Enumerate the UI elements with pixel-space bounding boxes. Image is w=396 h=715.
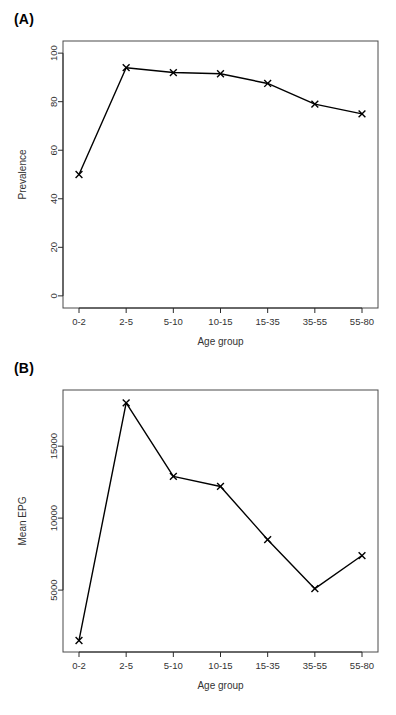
x-axis-title: Age group xyxy=(197,336,244,347)
figure-container: (A) 0204060801000-22-55-1010-1515-3535-5… xyxy=(0,0,396,715)
x-axis-tick-label: 5-10 xyxy=(164,316,183,327)
y-axis-title: Prevalence xyxy=(17,149,28,199)
y-axis-tick-label: 40 xyxy=(49,193,60,204)
chart-panel-a: (A) 0204060801000-22-55-1010-1515-3535-5… xyxy=(0,0,396,355)
y-axis-title: Mean EPG xyxy=(17,496,28,545)
x-axis-tick-label: 15-35 xyxy=(256,660,280,671)
y-axis-tick-label: 60 xyxy=(49,145,60,156)
x-axis-tick-label: 0-2 xyxy=(72,660,86,671)
x-axis-tick-label: 15-35 xyxy=(256,316,280,327)
data-series-line xyxy=(79,68,362,175)
y-axis-tick-label: 20 xyxy=(49,242,60,253)
plot-frame xyxy=(63,41,378,308)
x-axis-tick-label: 2-5 xyxy=(119,660,133,671)
x-axis-tick-label: 2-5 xyxy=(119,316,133,327)
y-axis-tick-label: 0 xyxy=(49,293,60,298)
y-axis-tick-label: 5000 xyxy=(49,580,60,601)
chart-panel-b: (B) 500010000150000-22-55-1010-1515-3535… xyxy=(0,352,396,715)
x-axis-tick-label: 0-2 xyxy=(72,316,86,327)
x-axis-tick-label: 35-55 xyxy=(303,660,327,671)
y-axis-tick-label: 80 xyxy=(49,96,60,107)
x-axis-tick-label: 10-15 xyxy=(208,316,232,327)
data-point-marker xyxy=(311,585,318,592)
prevalence-line-chart: 0204060801000-22-55-1010-1515-3535-5555-… xyxy=(0,0,396,355)
x-axis-tick-label: 35-55 xyxy=(303,316,327,327)
x-axis-tick-label: 10-15 xyxy=(208,660,232,671)
x-axis-title: Age group xyxy=(197,680,244,691)
data-point-marker xyxy=(76,171,83,178)
x-axis-tick-label: 55-80 xyxy=(350,316,374,327)
y-axis-tick-label: 100 xyxy=(49,45,60,61)
plot-frame xyxy=(63,390,378,652)
y-axis-tick-label: 15000 xyxy=(49,433,60,459)
data-series-line xyxy=(79,403,362,641)
x-axis-tick-label: 5-10 xyxy=(164,660,183,671)
mean-epg-line-chart: 500010000150000-22-55-1010-1515-3535-555… xyxy=(0,352,396,715)
x-axis-tick-label: 55-80 xyxy=(350,660,374,671)
y-axis-tick-label: 10000 xyxy=(49,505,60,531)
data-point-marker xyxy=(359,552,366,559)
data-point-marker xyxy=(264,536,271,543)
